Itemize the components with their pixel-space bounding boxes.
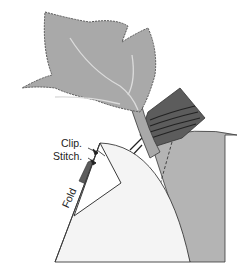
clip-label: Clip. bbox=[61, 138, 82, 149]
applique-diagram bbox=[0, 0, 237, 269]
clip-arrow bbox=[88, 148, 98, 155]
stitch-label: Stitch. bbox=[53, 151, 82, 162]
